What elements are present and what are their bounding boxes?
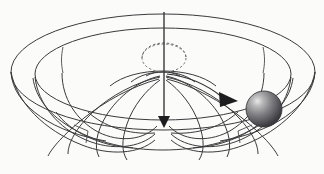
meridian-right-outer — [171, 72, 315, 152]
symmetry-axis-arrowhead — [158, 116, 170, 128]
rim-rib-left — [62, 47, 64, 73]
meridian-left-outer — [11, 72, 155, 152]
peak-sweep-right-2 — [166, 77, 258, 154]
peak-sweep-left-2 — [68, 77, 160, 154]
potential-surface-drawing — [0, 0, 324, 174]
rolling-trajectory-arrowhead — [219, 92, 238, 107]
mexican-hat-figure — [0, 0, 324, 174]
outer-wall-front-edge — [11, 72, 106, 141]
meridian-left-inner — [62, 73, 157, 139]
rolling-trajectory-path — [167, 74, 222, 97]
rim-rib-right — [263, 47, 265, 73]
